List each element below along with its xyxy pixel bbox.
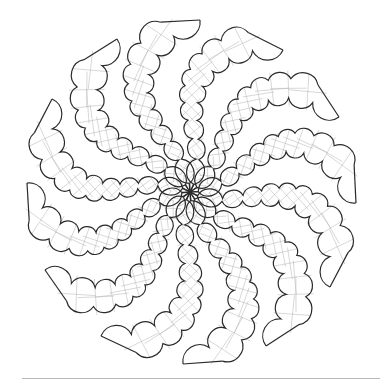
hatch-line xyxy=(28,130,62,146)
hatch-line xyxy=(163,311,184,338)
hatch-line xyxy=(200,47,221,74)
hatch-line xyxy=(163,190,171,204)
arm-tip xyxy=(34,99,52,133)
hatch-line xyxy=(320,239,354,255)
arm-edge xyxy=(190,192,330,287)
hatch-line xyxy=(122,275,129,306)
hatch-line xyxy=(207,244,228,251)
arm-tip xyxy=(266,325,299,346)
hatch-line xyxy=(64,223,77,254)
arm-edge xyxy=(27,183,190,233)
arm-tip xyxy=(330,253,348,287)
arm-edge xyxy=(52,99,190,192)
arm-tip xyxy=(84,39,117,60)
hatch-line xyxy=(206,338,238,359)
hatch-line xyxy=(199,210,215,211)
arm-tip xyxy=(45,270,67,301)
hatch-line xyxy=(298,194,323,215)
spiral-arms xyxy=(27,20,356,364)
arm-tip xyxy=(354,165,356,203)
hatch-line xyxy=(153,133,174,140)
hatch-line xyxy=(150,319,170,349)
arm-edge xyxy=(70,60,190,192)
arm-edge xyxy=(190,183,353,252)
hatch-line xyxy=(125,214,132,237)
hatch-line xyxy=(144,124,167,131)
hatch-line xyxy=(60,170,85,191)
hatch-line xyxy=(134,207,141,228)
arm-edge xyxy=(190,192,312,325)
hatch-line xyxy=(125,59,156,72)
spiral-pinwheel-drawing xyxy=(0,0,381,381)
hatch-line xyxy=(47,161,74,181)
hatch-line xyxy=(117,150,140,155)
arm-tip xyxy=(27,183,29,220)
arm-tip xyxy=(183,361,222,364)
arm-edge xyxy=(190,72,318,192)
hatch-line xyxy=(226,311,258,324)
hatch-line xyxy=(132,268,140,297)
hatch-line xyxy=(95,137,122,144)
bottom-divider xyxy=(22,378,380,379)
hatch-line xyxy=(244,87,251,116)
hatch-line xyxy=(129,102,156,109)
arm-edge xyxy=(28,192,190,256)
hatch-line xyxy=(209,180,218,194)
arm-edge xyxy=(190,192,286,346)
hatch-line xyxy=(230,225,252,229)
arm-tip xyxy=(318,85,339,117)
arm-tip xyxy=(248,33,283,51)
hatch-line xyxy=(255,79,261,110)
hatch-line xyxy=(228,285,257,293)
hatch-line xyxy=(178,164,192,172)
arm-tip xyxy=(161,20,201,22)
hatch-line xyxy=(332,150,353,181)
hatch-line xyxy=(225,120,231,143)
hatch-line xyxy=(98,181,117,199)
arm-edge xyxy=(123,21,190,192)
hatch-line xyxy=(234,26,251,60)
hatch-line xyxy=(145,24,177,45)
hatch-line xyxy=(156,231,161,252)
hatch-line xyxy=(268,249,297,256)
hatch-line xyxy=(225,274,252,281)
hatch-line xyxy=(214,253,237,259)
hatch-line xyxy=(250,147,257,170)
hatch-line xyxy=(240,156,247,177)
hatch-line xyxy=(306,130,319,161)
hatch-line xyxy=(31,204,52,236)
arm-edge xyxy=(67,192,190,313)
hatch-line xyxy=(307,204,334,224)
hatch-line xyxy=(241,229,264,235)
hatch-line xyxy=(182,85,202,105)
hatch-line xyxy=(190,59,211,83)
arm-tip xyxy=(101,336,136,353)
hatch-line xyxy=(85,128,114,134)
arm-edge xyxy=(190,50,283,192)
hatch-line xyxy=(77,118,109,123)
hatch-line xyxy=(151,241,157,264)
hatch-line xyxy=(166,174,182,175)
hatch-line xyxy=(172,301,194,325)
hatch-line xyxy=(274,260,305,266)
